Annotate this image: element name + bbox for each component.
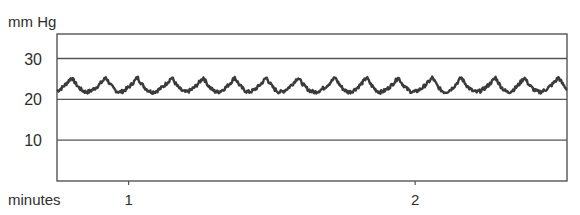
- x-tick-label: 2: [411, 191, 419, 208]
- y-tick-label: 20: [24, 91, 42, 108]
- pressure-chart: mm Hg minutes 102030 12: [0, 0, 580, 215]
- x-axis-label: minutes: [8, 191, 61, 208]
- y-tick-label: 10: [24, 132, 42, 149]
- gridlines: [57, 59, 567, 141]
- x-tick-label: 1: [124, 191, 132, 208]
- x-ticks: 12: [124, 181, 419, 208]
- y-tick-labels: 102030: [24, 51, 42, 150]
- y-axis-label: mm Hg: [8, 13, 56, 30]
- pressure-line: [57, 77, 567, 94]
- y-tick-label: 30: [24, 51, 42, 68]
- plot-frame: [57, 34, 567, 181]
